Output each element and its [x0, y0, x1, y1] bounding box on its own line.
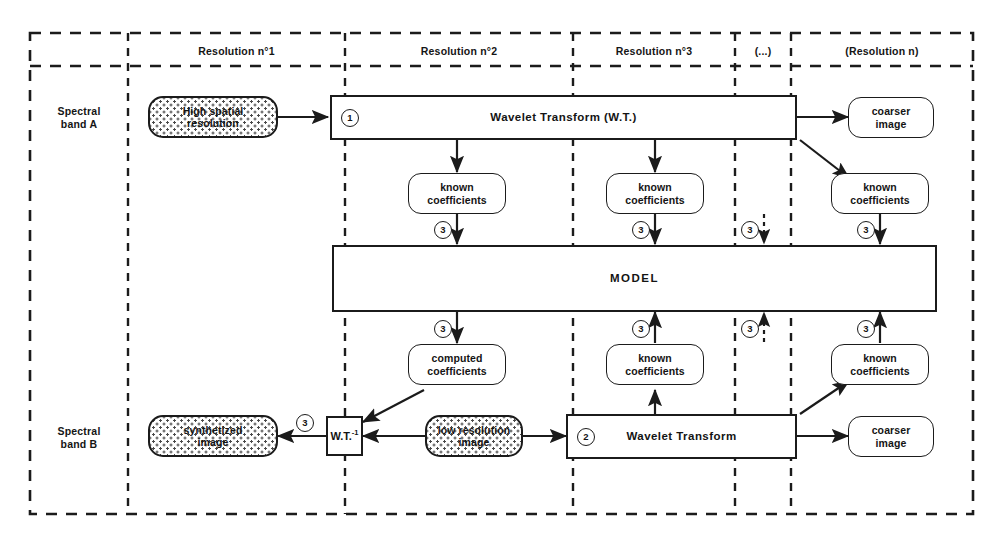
step-marker-down-resn: 3: [857, 320, 875, 338]
node-computed-coefficients-res2: computed coefficients: [408, 344, 506, 385]
node-coarser-image-bottom-line2: image: [872, 437, 911, 449]
step-marker-down-dots-label: 3: [747, 324, 752, 334]
node-known-coefficients-top-resn: known coefficients: [831, 173, 929, 214]
node-inverse-wavelet-transform: W.T.-1: [326, 416, 363, 456]
step-marker-down-dots: 3: [741, 320, 759, 338]
step-marker-up-dots: 3: [741, 221, 759, 239]
node-wavelet-transform-bottom: Wavelet Transform: [566, 414, 797, 459]
step-marker-down-res2: 3: [434, 320, 452, 338]
step-marker-3-synthesis: 3: [296, 414, 314, 432]
step-marker-up-resn: 3: [857, 221, 875, 239]
step-marker-2-label: 2: [583, 432, 588, 442]
node-inverse-wavelet-transform-label: W.T.: [330, 430, 351, 442]
step-marker-up-dots-label: 3: [747, 225, 752, 235]
step-marker-down-res3: 3: [632, 320, 650, 338]
node-high-spatial-resolution-line2: resolution: [183, 117, 244, 129]
step-marker-up-res2-label: 3: [440, 225, 445, 235]
column-header-resolution-n: (Resolution n): [791, 36, 973, 66]
column-header-resolution-2: Resolution n°2: [345, 36, 573, 66]
node-known-coefficients-top-res2-line2: coefficients: [427, 194, 487, 206]
node-known-coefficients-top-resn-line1: known: [850, 181, 910, 193]
column-header-ellipsis-label: (...): [755, 45, 772, 57]
step-marker-down-res3-label: 3: [638, 324, 643, 334]
node-known-coefficients-bottom-res3: known coefficients: [606, 344, 704, 385]
band-label-spectral-a-line2: band A: [57, 118, 100, 131]
diagram-canvas: Resolution n°1 Resolution n°2 Resolution…: [0, 0, 1003, 545]
step-marker-1-label: 1: [347, 113, 352, 123]
node-known-coefficients-top-res2: known coefficients: [408, 173, 506, 214]
node-coarser-image-top: coarser image: [848, 97, 934, 138]
step-marker-1: 1: [341, 109, 359, 127]
column-header-resolution-3-label: Resolution n°3: [616, 45, 692, 57]
band-label-spectral-a-line1: Spectral: [57, 105, 100, 118]
column-header-resolution-2-label: Resolution n°2: [421, 45, 497, 57]
step-marker-up-resn-label: 3: [863, 225, 868, 235]
node-coarser-image-top-line2: image: [872, 118, 911, 130]
step-marker-up-res3-label: 3: [638, 225, 643, 235]
step-marker-up-res3: 3: [632, 221, 650, 239]
node-synthetized-image-line1: synthetized: [184, 424, 243, 436]
node-model: MODEL: [332, 245, 937, 312]
node-computed-coefficients-res2-line2: coefficients: [427, 365, 487, 377]
band-label-spectral-b-line1: Spectral: [57, 425, 100, 438]
step-marker-3-synthesis-label: 3: [302, 418, 307, 428]
node-high-spatial-resolution-line1: High spatial: [183, 105, 244, 117]
band-label-spectral-b-line2: band B: [57, 438, 100, 451]
node-synthetized-image-line2: image: [184, 436, 243, 448]
node-low-resolution-image: low resolution image: [425, 415, 523, 457]
band-label-spectral-b: Spectral band B: [30, 418, 128, 458]
node-wavelet-transform-top: Wavelet Transform (W.T.): [330, 95, 797, 140]
step-marker-down-res2-label: 3: [440, 324, 445, 334]
node-known-coefficients-top-res3: known coefficients: [606, 173, 704, 214]
node-known-coefficients-bottom-resn-line2: coefficients: [850, 365, 910, 377]
node-coarser-image-bottom: coarser image: [848, 416, 934, 457]
node-known-coefficients-top-resn-line2: coefficients: [850, 194, 910, 206]
column-header-resolution-n-label: (Resolution n): [845, 45, 918, 57]
node-known-coefficients-top-res3-line1: known: [625, 181, 685, 193]
node-synthetized-image: synthetized image: [148, 415, 278, 457]
column-header-ellipsis: (...): [735, 36, 791, 66]
node-known-coefficients-bottom-res3-line2: coefficients: [625, 365, 685, 377]
column-header-resolution-3: Resolution n°3: [573, 36, 735, 66]
node-coarser-image-bottom-line1: coarser: [872, 424, 911, 436]
node-known-coefficients-bottom-resn-line1: known: [850, 352, 910, 364]
node-known-coefficients-bottom-res3-line1: known: [625, 352, 685, 364]
node-known-coefficients-bottom-resn: known coefficients: [831, 344, 929, 385]
band-label-spectral-a: Spectral band A: [30, 98, 128, 138]
column-header-resolution-1-label: Resolution n°1: [198, 45, 274, 57]
node-low-resolution-image-line2: image: [438, 436, 511, 448]
step-marker-down-resn-label: 3: [863, 324, 868, 334]
node-coarser-image-top-line1: coarser: [872, 105, 911, 117]
node-wavelet-transform-bottom-label: Wavelet Transform: [626, 430, 736, 444]
node-low-resolution-image-line1: low resolution: [438, 424, 511, 436]
step-marker-2: 2: [577, 428, 595, 446]
node-inverse-wavelet-transform-exponent: -1: [352, 428, 359, 437]
node-high-spatial-resolution: High spatial resolution: [148, 96, 278, 138]
node-computed-coefficients-res2-line1: computed: [427, 352, 487, 364]
step-marker-up-res2: 3: [434, 221, 452, 239]
node-known-coefficients-top-res3-line2: coefficients: [625, 194, 685, 206]
column-header-resolution-1: Resolution n°1: [128, 36, 345, 66]
node-wavelet-transform-top-label: Wavelet Transform (W.T.): [490, 111, 636, 125]
node-model-label: MODEL: [610, 272, 659, 286]
node-known-coefficients-top-res2-line1: known: [427, 181, 487, 193]
